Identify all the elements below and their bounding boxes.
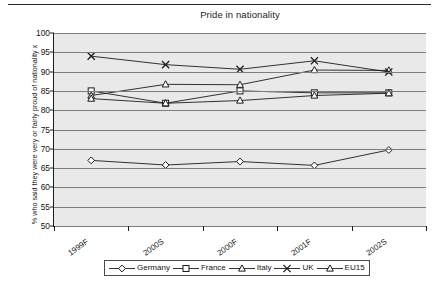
- x-tick-mark: [128, 226, 129, 231]
- plot-inner: 505560657075808590951001999F2000S2000F20…: [54, 33, 426, 226]
- y-tick-label: 50: [41, 221, 50, 231]
- gridline-75: [54, 130, 426, 131]
- gridline-95: [54, 52, 426, 53]
- x-tick-mark: [277, 226, 278, 231]
- x-tick-label-2000S: 2000S: [141, 237, 165, 258]
- x-tick-mark: [203, 226, 204, 231]
- page-title: Pride in nationality: [60, 9, 420, 20]
- x-tick-label-2001F: 2001F: [290, 237, 314, 257]
- y-tick-mark-70: [50, 148, 54, 149]
- gridline-90: [54, 72, 426, 73]
- y-tick-label: 70: [41, 144, 50, 154]
- y-tick-mark-80: [50, 110, 54, 111]
- y-tick-mark-55: [50, 206, 54, 207]
- legend-label: Germany: [137, 264, 170, 272]
- legend-item-uk[interactable]: UK: [274, 263, 313, 274]
- x-tick-label-1999F: 1999F: [67, 237, 91, 257]
- gridline-85: [54, 91, 426, 92]
- legend-label: Italy: [257, 264, 272, 272]
- gridline-70: [54, 149, 426, 150]
- gridline-100: [54, 33, 426, 34]
- y-tick-label: 65: [41, 163, 50, 173]
- data-point-italy-2000S: [162, 81, 169, 87]
- y-axis-label: % who said they were very or fairly prou…: [30, 35, 39, 235]
- legend-item-france[interactable]: France: [173, 263, 226, 274]
- chart-legend: GermanyFranceItalyUKEU15: [104, 260, 370, 276]
- y-tick-mark-85: [50, 90, 54, 91]
- legend-label: UK: [302, 264, 313, 272]
- y-tick-label: 80: [41, 105, 50, 115]
- y-tick-mark-65: [50, 168, 54, 169]
- x-tick-label-2002S: 2002S: [364, 237, 388, 258]
- data-point-germany-2000F: [237, 158, 244, 165]
- y-tick-mark-100: [50, 33, 54, 34]
- gridline-60: [54, 187, 426, 188]
- gridline-80: [54, 110, 426, 111]
- legend-item-italy[interactable]: Italy: [229, 263, 272, 274]
- legend-label: EU15: [345, 264, 365, 272]
- legend-label: France: [201, 264, 226, 272]
- x-tick-label-2000F: 2000F: [215, 237, 239, 257]
- y-tick-label: 85: [41, 86, 50, 96]
- y-tick-mark-90: [50, 71, 54, 72]
- legend-item-eu15[interactable]: EU15: [317, 263, 365, 274]
- gridline-50: [54, 226, 426, 227]
- y-tick-label: 90: [41, 67, 50, 77]
- y-tick-label: 100: [36, 28, 50, 38]
- top-divider: [8, 4, 431, 5]
- y-tick-mark-60: [50, 187, 54, 188]
- x-tick-mark: [426, 226, 427, 231]
- y-tick-label: 75: [41, 125, 50, 135]
- y-tick-label: 60: [41, 182, 50, 192]
- x-tick-mark: [54, 226, 55, 231]
- diamond-icon: [109, 263, 135, 274]
- y-tick-mark-75: [50, 129, 54, 130]
- y-tick-mark-95: [50, 52, 54, 53]
- plot-area: 505560657075808590951001999F2000S2000F20…: [53, 33, 426, 227]
- gridline-65: [54, 168, 426, 169]
- gridline-55: [54, 207, 426, 208]
- chart-screenshot: Pride in nationality % who said they wer…: [0, 0, 439, 288]
- x-tick-mark: [352, 226, 353, 231]
- square-icon: [173, 263, 199, 274]
- legend-item-germany[interactable]: Germany: [109, 263, 170, 274]
- y-tick-label: 95: [41, 47, 50, 57]
- triangle-icon: [317, 263, 343, 274]
- y-tick-label: 55: [41, 202, 50, 212]
- cross-icon: [274, 263, 300, 274]
- triangle-icon: [229, 263, 255, 274]
- data-point-germany-2002S: [385, 147, 392, 154]
- data-point-germany-1999F: [88, 157, 95, 164]
